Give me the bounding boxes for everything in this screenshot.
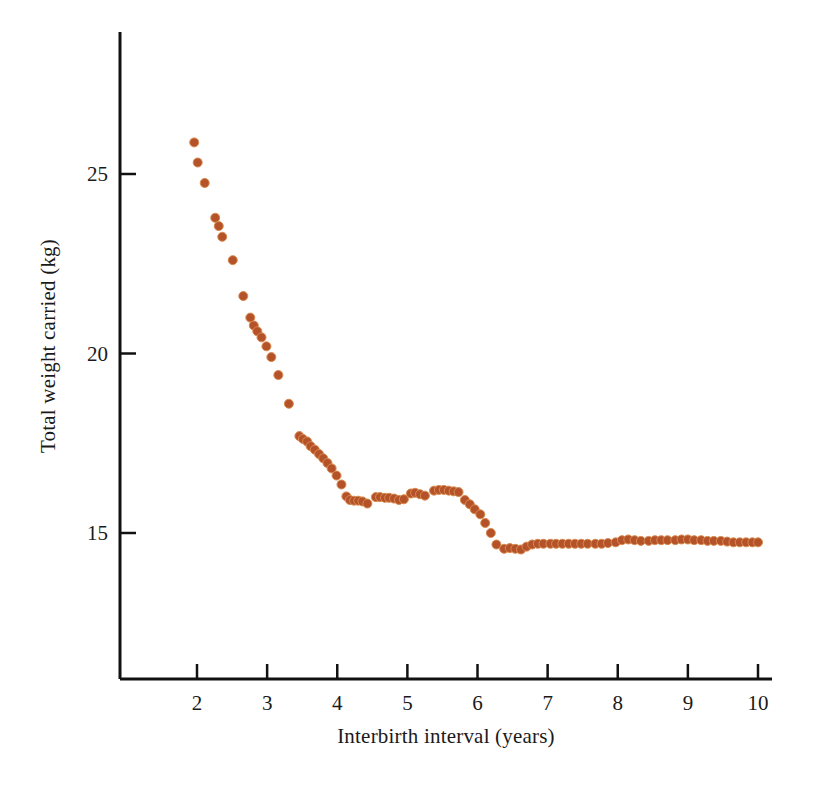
scatter-plot-canvas	[0, 0, 815, 797]
tick-marks	[120, 174, 758, 679]
data-point-group	[190, 138, 763, 554]
data-point	[754, 538, 763, 547]
x-tick-label: 7	[542, 693, 553, 714]
data-point	[332, 471, 341, 480]
data-point	[211, 213, 220, 222]
data-point	[284, 399, 293, 408]
data-point	[239, 292, 248, 301]
chart-figure: 2345678910152025 Interbirth interval (ye…	[0, 0, 815, 797]
x-axis-title: Interbirth interval (years)	[337, 724, 555, 749]
x-tick-label: 6	[472, 693, 483, 714]
x-tick-label: 5	[402, 693, 413, 714]
y-axis-title: Total weight carried (kg)	[36, 238, 61, 452]
data-point	[200, 178, 209, 187]
data-point	[267, 353, 276, 362]
data-point	[481, 518, 490, 527]
data-point	[337, 480, 346, 489]
data-point	[228, 256, 237, 265]
x-tick-label: 9	[683, 693, 694, 714]
x-tick-label: 8	[613, 693, 624, 714]
data-point	[363, 499, 372, 508]
x-tick-label: 2	[192, 693, 203, 714]
data-point	[262, 342, 271, 351]
y-tick-label: 20	[68, 343, 108, 364]
data-point	[257, 333, 266, 342]
data-point	[420, 491, 429, 500]
x-tick-label: 10	[748, 693, 769, 714]
axis-lines	[120, 32, 772, 679]
data-point	[274, 371, 283, 380]
data-point	[190, 138, 199, 147]
data-point	[214, 222, 223, 231]
data-point	[454, 488, 463, 497]
x-tick-label: 3	[262, 693, 273, 714]
data-point	[218, 232, 227, 241]
data-point	[476, 510, 485, 519]
y-tick-label: 15	[68, 523, 108, 544]
data-point	[486, 529, 495, 538]
x-tick-label: 4	[332, 693, 343, 714]
data-point	[193, 158, 202, 167]
y-tick-label: 25	[68, 164, 108, 185]
